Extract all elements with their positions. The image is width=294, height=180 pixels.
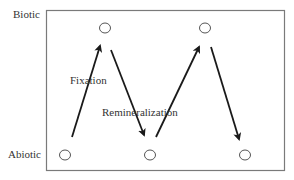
node-biotic-1: [100, 23, 111, 33]
diagram-frame: [47, 11, 285, 171]
biotic-level-label: Biotic: [13, 8, 40, 20]
node-abiotic-3: [240, 150, 251, 160]
remineralization-arrow-1: [111, 50, 144, 135]
abiotic-level-label: Abiotic: [8, 148, 41, 160]
fixation-arrow-2: [156, 47, 199, 137]
node-biotic-2: [200, 23, 211, 33]
node-abiotic-1: [60, 150, 71, 160]
remineralization-arrow-2: [211, 47, 239, 139]
nutrient-cycle-diagram: [0, 0, 294, 180]
node-abiotic-2: [145, 150, 156, 160]
nodes: [60, 23, 251, 160]
arrows: [72, 46, 239, 139]
fixation-arrow-1: [72, 46, 100, 137]
fixation-label: Fixation: [70, 74, 107, 86]
remineralization-label: Remineralization: [102, 106, 178, 118]
